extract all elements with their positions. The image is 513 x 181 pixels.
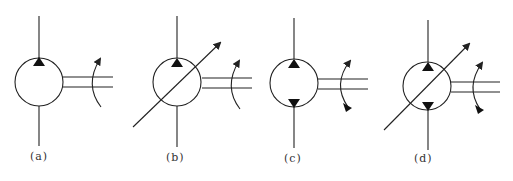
rotation-arrow-icon xyxy=(92,59,101,107)
bidirectional-rotation-arrow-icon xyxy=(473,63,482,109)
symbol-c xyxy=(270,18,368,148)
rotation-arrow-icon xyxy=(231,61,240,109)
variable-displacement-arrow-icon xyxy=(384,44,469,130)
label-c: (c) xyxy=(284,152,302,165)
flow-triangle-out-icon xyxy=(171,58,183,67)
label-b: (b) xyxy=(166,151,185,164)
symbol-b xyxy=(133,16,252,147)
label-a: (a) xyxy=(30,150,48,163)
flow-triangle-up-icon xyxy=(288,59,300,68)
rotation-arrowhead-down-icon xyxy=(475,105,484,114)
label-d: (d) xyxy=(414,152,433,165)
rotation-arrowhead-down-icon xyxy=(343,103,352,112)
flow-triangle-up-icon xyxy=(422,62,434,71)
bidirectional-rotation-arrow-icon xyxy=(340,61,350,107)
symbol-d xyxy=(384,20,500,150)
symbol-a xyxy=(15,16,113,146)
pump-symbols-diagram xyxy=(0,0,513,181)
